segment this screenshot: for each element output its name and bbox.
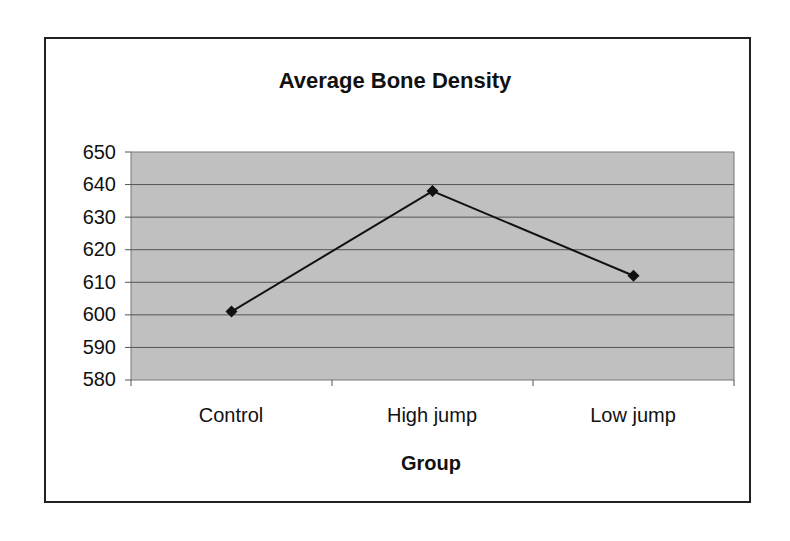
y-tick: 620 <box>44 238 116 261</box>
y-tick: 600 <box>44 303 116 326</box>
x-axis-label: Group <box>0 452 790 475</box>
y-tick: 650 <box>44 141 116 164</box>
y-tick: 640 <box>44 173 116 196</box>
x-tick: Low jump <box>553 404 713 427</box>
y-tick: 590 <box>44 336 116 359</box>
y-tick: 610 <box>44 271 116 294</box>
x-tick: High jump <box>352 404 512 427</box>
y-tick: 580 <box>44 368 116 391</box>
x-tick: Control <box>151 404 311 427</box>
y-tick: 630 <box>44 206 116 229</box>
